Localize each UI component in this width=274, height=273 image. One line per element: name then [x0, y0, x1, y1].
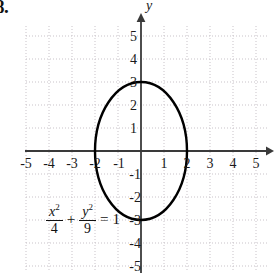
- y-tick-label: 1: [130, 122, 137, 136]
- x-axis-arrowhead: [266, 147, 274, 156]
- fraction-y-squared-over-9: y2 9: [79, 203, 96, 236]
- x-tick-label: 4: [230, 157, 237, 171]
- x-tick-label: -3: [66, 157, 78, 171]
- y-tick-label: -1: [129, 168, 141, 182]
- y-axis-arrowhead: [137, 13, 146, 22]
- fraction-denominator: 4: [48, 221, 61, 236]
- y-tick-label: 2: [130, 99, 137, 113]
- y-tick-label: 5: [130, 30, 137, 44]
- ellipse-equation: x2 4 + y2 9 = 1: [46, 203, 120, 236]
- y-tick-label: -2: [129, 191, 141, 205]
- x-tick-label: 3: [207, 157, 214, 171]
- y-tick-label: 3: [130, 76, 137, 90]
- figure-panel: 8.: [0, 0, 274, 273]
- x-tick-label: -5: [20, 157, 32, 171]
- fraction-denominator: 9: [81, 221, 94, 236]
- fraction-numerator: y2: [79, 203, 96, 220]
- equals-operator: =: [99, 212, 109, 227]
- graph-canvas: [0, 0, 274, 273]
- x-tick-label: -2: [89, 157, 101, 171]
- coordinate-graph: -5 -4 -3 -2 -1 1 2 3 4 5 5 4 3 2 1 -1 -2…: [0, 0, 274, 273]
- y-tick-label: -3: [129, 214, 141, 228]
- plus-operator: +: [66, 212, 76, 227]
- x-tick-label: -1: [113, 157, 125, 171]
- fraction-numerator: x2: [46, 203, 63, 220]
- x-tick-label: 2: [184, 157, 191, 171]
- equation-right-side: 1: [112, 212, 120, 227]
- y-tick-label: 4: [130, 53, 137, 67]
- fraction-x-squared-over-4: x2 4: [46, 203, 63, 236]
- exponent: 2: [55, 202, 60, 212]
- y-axis-name-label: y: [146, 0, 152, 14]
- exponent: 2: [88, 202, 93, 212]
- x-tick-label: -4: [43, 157, 55, 171]
- y-tick-label: -4: [129, 237, 141, 251]
- y-tick-label: -5: [129, 260, 141, 273]
- x-tick-label: 1: [161, 157, 168, 171]
- x-tick-label: 5: [253, 157, 260, 171]
